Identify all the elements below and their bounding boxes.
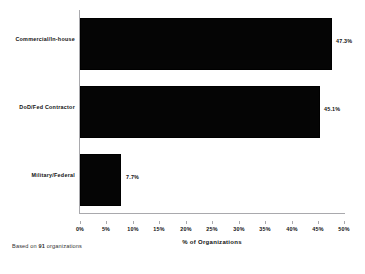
note-suffix: organizations	[45, 243, 82, 249]
tick-mark	[186, 221, 187, 224]
tick-label: 35%	[250, 226, 280, 232]
tick-mark	[318, 221, 319, 224]
category-label: DoD/Fed Contractor	[1, 104, 75, 110]
bar-row: Military/Federal 7.7%	[0, 146, 365, 214]
bar-value-label: 47.3%	[336, 38, 352, 44]
bar-row: Commercial/In-house 47.3%	[0, 10, 365, 78]
tick-mark	[80, 221, 81, 224]
sample-size-note: Based on 91 organizations	[12, 243, 82, 249]
bar-chart-plot-area: Commercial/In-house 47.3% DoD/Fed Contra…	[0, 8, 365, 220]
category-label: Military/Federal	[1, 172, 75, 178]
bar[interactable]	[80, 154, 121, 206]
bar-value-label: 7.7%	[126, 174, 139, 180]
bar[interactable]	[80, 18, 332, 70]
tick-mark	[159, 221, 160, 224]
bar-row: DoD/Fed Contractor 45.1%	[0, 78, 365, 146]
page-footer	[0, 261, 365, 271]
value-axis-tick-labels: 0% 5% 10% 15% 20% 25% 30% 35% 40% 45% 50…	[0, 226, 365, 236]
category-label: Commercial/In-house	[1, 36, 75, 42]
tick-mark	[292, 221, 293, 224]
tick-mark	[239, 221, 240, 224]
tick-mark	[133, 221, 134, 224]
tick-mark	[212, 221, 213, 224]
note-prefix: Based on	[12, 243, 39, 249]
tick-label: 25%	[197, 226, 227, 232]
tick-mark	[344, 221, 345, 224]
value-axis-title: % of Organizations	[79, 239, 345, 245]
tick-label: 50%	[329, 226, 359, 232]
bar-value-label: 45.1%	[324, 106, 340, 112]
tick-mark	[265, 221, 266, 224]
tick-label: 15%	[144, 226, 174, 232]
bar[interactable]	[80, 86, 320, 138]
tick-mark	[106, 221, 107, 224]
tick-label: 5%	[91, 226, 121, 232]
